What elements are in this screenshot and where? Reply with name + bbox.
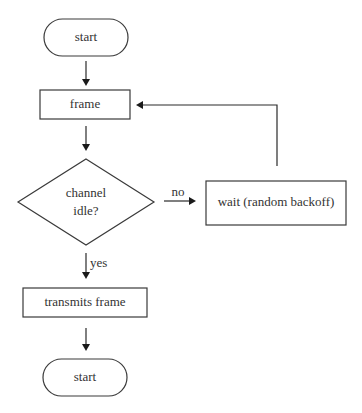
wait-label: wait (random backoff) xyxy=(206,194,346,210)
decision-label-line2: idle? xyxy=(36,203,136,219)
end-label: start xyxy=(43,369,127,385)
frame-label: frame xyxy=(40,96,130,112)
decision-diamond xyxy=(18,159,154,245)
transmit-label: transmits frame xyxy=(23,294,147,310)
start-label: start xyxy=(44,29,128,45)
arrow-wait-to-frame xyxy=(142,105,277,166)
arrowhead-down-icon xyxy=(82,272,90,279)
arrowhead-down-icon xyxy=(82,344,90,351)
arrowhead-down-icon xyxy=(82,144,90,151)
arrowhead-down-icon xyxy=(82,79,90,86)
decision-label-line1: channel xyxy=(36,185,136,201)
arrowhead-right-icon xyxy=(189,197,196,205)
edge-no-label: no xyxy=(166,184,190,200)
arrowhead-left-icon xyxy=(136,101,143,109)
edge-yes-label: yes xyxy=(90,255,107,271)
